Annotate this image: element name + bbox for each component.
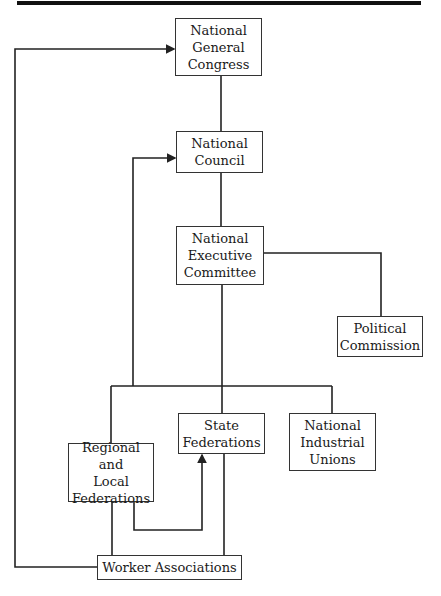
node-political-commission: Political Commission xyxy=(337,316,423,357)
node-national-council: National Council xyxy=(176,131,263,173)
connector-lines xyxy=(0,0,441,596)
node-worker-associations: Worker Associations xyxy=(97,555,242,580)
node-national-industrial-unions: National Industrial Unions xyxy=(289,413,376,471)
edge-nec-pc xyxy=(264,253,381,316)
node-national-general-congress: National General Congress xyxy=(175,18,262,76)
edge-rlf-nc xyxy=(133,158,175,386)
node-state-federations: State Federations xyxy=(178,413,265,454)
node-regional-local-federations: Regional and Local Federations xyxy=(68,443,154,502)
node-national-executive-committee: National Executive Committee xyxy=(176,226,264,285)
